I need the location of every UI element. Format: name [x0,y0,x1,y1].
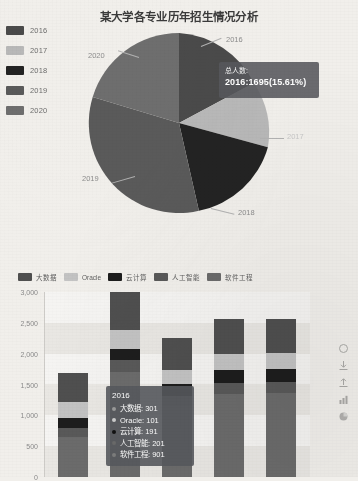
tooltip-dot-ai [112,441,116,445]
bar-2019[interactable] [214,319,244,477]
legend-swatch-2017 [6,46,24,55]
bar-2020[interactable] [266,319,296,477]
legend-item[interactable]: 人工智能 [154,272,200,282]
y-axis-tick-500: 500 [26,443,44,450]
legend-item[interactable]: 软件工程 [207,272,253,282]
bar-chart-panel: 大数据 Oracle 云计算 人工智能 软件工程 3,000 2,500 2,0… [0,262,358,477]
legend-label: 2016 [30,26,48,35]
legend-item[interactable]: 云计算 [108,272,147,282]
bar-segment-cloud [266,369,296,382]
legend-label: 大数据 [36,272,57,282]
tooltip-dot-oracle [112,418,116,422]
download-icon[interactable] [334,357,352,374]
y-axis-line [44,292,45,477]
bar-segment-se [266,393,296,477]
legend-label: 2019 [30,86,48,95]
pie-svg [84,28,274,218]
legend-label: 2020 [30,106,48,115]
bar-tooltip-label: 软件工程: 901 [120,449,165,461]
bar-chart-plot-area[interactable]: 3,000 2,500 2,000 1,500 1,000 500 0 [44,292,310,477]
bar-2016[interactable] [58,373,88,477]
bar-segment-oracle [214,354,244,370]
bar-segment-se [214,394,244,477]
bar-segment-cloud [214,370,244,383]
bar-chart-legend: 大数据 Oracle 云计算 人工智能 软件工程 [18,272,253,282]
legend-item[interactable]: 2017 [6,42,70,58]
legend-item[interactable]: Oracle [64,273,101,281]
bar-tooltip-header: 2016 [112,390,188,402]
y-axis-tick-2000: 2,000 [20,350,44,357]
legend-item[interactable]: 2020 [6,102,70,118]
legend-swatch-se [207,273,221,281]
y-axis-tick-1000: 1,000 [20,412,44,419]
bar-segment-ai [58,428,88,437]
legend-label: 人工智能 [172,272,200,282]
legend-label: 2018 [30,66,48,75]
bar-tooltip: 2016 大数据: 301 Oracle: 101 云计算: 191 人工智能:… [106,386,194,466]
legend-swatch-oracle [64,273,78,281]
bar-tooltip-label: 人工智能: 201 [120,438,165,450]
bar-chart-icon[interactable] [334,391,352,408]
legend-swatch-2020 [6,106,24,115]
bar-tooltip-row: 人工智能: 201 [112,438,188,450]
bar-segment-cloud [58,418,88,428]
bar-tooltip-label: Oracle: 101 [120,415,159,427]
bar-tooltip-row: 大数据: 301 [112,403,188,415]
legend-item[interactable]: 2016 [6,22,70,38]
pie-leader-line-2017 [260,138,284,139]
legend-swatch-2018 [6,66,24,75]
bar-segment-ai [214,383,244,394]
bar-segment-oracle [58,402,88,417]
legend-swatch-bigdata [18,273,32,281]
legend-label: Oracle [82,274,101,281]
legend-swatch-cloud [108,273,122,281]
pie-chart-icon[interactable] [334,408,352,425]
pie-tooltip-title: 总人数: [225,66,313,76]
pie-callout-2018: 2018 [238,208,255,217]
bar-segment-se [58,437,88,477]
y-axis-tick-2500: 2,500 [20,319,44,326]
legend-item[interactable]: 2018 [6,62,70,78]
tooltip-dot-se [112,453,116,457]
pie-callout-2020: 2020 [88,51,105,60]
legend-item[interactable]: 2019 [6,82,70,98]
bar-segment-bigdata [266,319,296,354]
pie-callout-2017: 2017 [287,132,304,141]
bar-tooltip-row: Oracle: 101 [112,415,188,427]
bar-segment-oracle [162,370,192,384]
pie-chart-legend: 2016 2017 2018 2019 2020 [6,22,70,122]
bar-segment-oracle [266,353,296,369]
pie-callout-2019: 2019 [82,174,99,183]
legend-swatch-2016 [6,26,24,35]
restore-icon[interactable] [334,340,352,357]
bar-segment-oracle [110,330,140,349]
y-axis-tick-3000: 3,000 [20,289,44,296]
pie-callout-2016: 2016 [226,35,243,44]
legend-label: 2017 [30,46,48,55]
bar-tooltip-label: 大数据: 301 [120,403,158,415]
bar-segment-bigdata [58,373,88,403]
bar-segment-cloud [110,349,140,360]
pie-tooltip-value: 2016:1695(15.61%) [225,76,313,89]
bar-segment-bigdata [162,338,192,370]
bar-tooltip-row: 软件工程: 901 [112,449,188,461]
upload-icon[interactable] [334,374,352,391]
y-axis-tick-1500: 1,500 [20,381,44,388]
tooltip-dot-bigdata [112,407,116,411]
legend-swatch-2019 [6,86,24,95]
tooltip-dot-cloud [112,430,116,434]
pie-chart-graphic[interactable]: 2016 2017 2018 2019 2020 [84,28,274,218]
legend-item[interactable]: 大数据 [18,272,57,282]
legend-swatch-ai [154,273,168,281]
bar-segment-bigdata [110,292,140,330]
legend-label: 软件工程 [225,272,253,282]
pie-chart-panel: 某大学各专业历年招生情况分析 2016 2017 2018 2019 2020 [0,0,358,250]
bar-segment-bigdata [214,319,244,354]
chart-toolbar[interactable] [334,340,352,425]
bar-tooltip-row: 云计算: 191 [112,426,188,438]
bar-segment-ai [110,360,140,372]
pie-tooltip: 总人数: 2016:1695(15.61%) [219,62,319,98]
legend-label: 云计算 [126,272,147,282]
y-axis-tick-0: 0 [34,474,44,481]
bar-tooltip-label: 云计算: 191 [120,426,158,438]
